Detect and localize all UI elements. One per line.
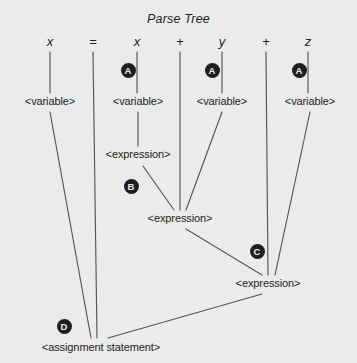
token-identifier: x [47, 34, 54, 49]
figure-title: Parse Tree [0, 12, 357, 26]
callout-badge-a: A [292, 63, 307, 78]
token-operator: = [89, 34, 97, 49]
callout-badge-a: A [205, 63, 220, 78]
tree-node-expr1: <expression> [106, 148, 171, 160]
tree-node-var2: <variable> [113, 95, 163, 107]
callout-badge-c: C [250, 244, 265, 259]
parse-tree-figure: Parse Tree x=x+y+z <variable><variable><… [0, 0, 357, 363]
callout-badge-b: B [124, 179, 139, 194]
tree-edge [186, 112, 222, 210]
callout-badge-d: D [57, 319, 72, 334]
tree-edge [266, 52, 268, 275]
tree-edge [143, 166, 174, 210]
tree-edge [50, 112, 91, 338]
tree-edge [93, 52, 97, 338]
tree-edge [275, 112, 310, 275]
token-identifier: y [219, 34, 226, 49]
token-operator: + [262, 34, 270, 49]
tree-node-var4: <variable> [285, 95, 335, 107]
token-identifier: z [305, 34, 312, 49]
callout-badge-a: A [121, 63, 136, 78]
token-identifier: x [134, 34, 141, 49]
tree-node-stmt: <assignment statement> [42, 341, 160, 353]
tree-edge [108, 294, 262, 338]
tree-node-var3: <variable> [197, 95, 247, 107]
tree-node-expr3: <expression> [236, 277, 301, 289]
tree-node-expr2: <expression> [148, 212, 213, 224]
parse-tree-edges [0, 0, 357, 363]
token-operator: + [176, 34, 184, 49]
tree-node-var1: <variable> [25, 95, 75, 107]
